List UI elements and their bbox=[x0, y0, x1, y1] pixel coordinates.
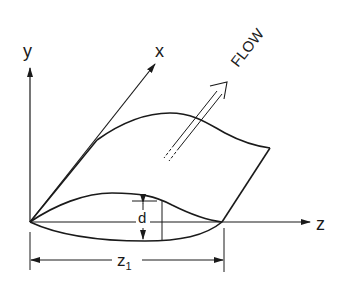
x-axis-label: x bbox=[155, 41, 164, 61]
cross-section-lower-curve bbox=[30, 222, 222, 241]
flow-arrow bbox=[164, 82, 227, 161]
cross-section-upper-curve bbox=[30, 193, 222, 222]
y-axis-label: y bbox=[23, 41, 32, 61]
wave-surface bbox=[30, 113, 270, 222]
diagram-canvas: y x z d z1 FLOW bbox=[0, 0, 345, 284]
wave-cross-section bbox=[30, 193, 222, 241]
length-label: z1 bbox=[117, 251, 132, 272]
wave-surface-diagram: y x z d z1 FLOW bbox=[0, 0, 345, 284]
depth-label: d bbox=[138, 209, 146, 226]
z-axis-label: z bbox=[316, 214, 325, 234]
flow-label: FLOW bbox=[227, 25, 268, 70]
surface-left-edge bbox=[30, 140, 97, 222]
surface-right-edge bbox=[222, 148, 270, 222]
